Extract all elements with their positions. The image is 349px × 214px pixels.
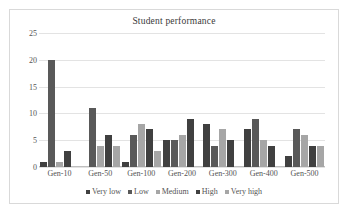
bar — [89, 108, 96, 167]
x-axis-tick-label: Gen-50 — [80, 169, 121, 178]
y-axis-tick-label: 0 — [33, 163, 37, 172]
bar — [97, 146, 104, 167]
x-axis-tick-label: Gen-400 — [243, 169, 284, 178]
chart-legend: Very lowLowMediumHighVery high — [10, 187, 338, 196]
bar — [317, 146, 324, 167]
plot-area — [39, 33, 325, 167]
y-axis-tick-label: 15 — [29, 82, 37, 91]
legend-label: Low — [134, 187, 149, 196]
y-axis-tick-label: 20 — [29, 55, 37, 64]
bar — [252, 119, 259, 167]
legend-swatch-icon — [128, 190, 132, 194]
bar — [171, 140, 178, 167]
bar — [187, 119, 194, 167]
x-axis-tick-label: Gen-10 — [39, 169, 80, 178]
legend-label: Very low — [92, 187, 121, 196]
legend-item[interactable]: High — [196, 187, 218, 196]
gridline — [39, 167, 325, 168]
x-axis-tick-label: Gen-200 — [162, 169, 203, 178]
x-axis-tick-label: Gen-300 — [202, 169, 243, 178]
bar — [211, 146, 218, 167]
bar-group — [39, 33, 80, 167]
bar — [154, 151, 161, 167]
bar — [138, 124, 145, 167]
bar — [105, 135, 112, 167]
y-axis-tick-label: 5 — [33, 136, 37, 145]
legend-label: High — [202, 187, 218, 196]
legend-item[interactable]: Low — [128, 187, 149, 196]
legend-swatch-icon — [225, 190, 229, 194]
bar — [48, 60, 55, 167]
bar — [268, 146, 275, 167]
chart-title: Student performance — [10, 16, 338, 26]
bar-group — [284, 33, 325, 167]
legend-swatch-icon — [196, 190, 200, 194]
y-axis-tick-label: 10 — [29, 109, 37, 118]
bar — [40, 162, 47, 167]
y-axis-tick-labels: 0510152025 — [19, 33, 39, 167]
bar-groups — [39, 33, 325, 167]
bar-group — [121, 33, 162, 167]
legend-swatch-icon — [86, 190, 90, 194]
x-axis-tick-label: Gen-500 — [284, 169, 325, 178]
bar-group — [162, 33, 203, 167]
bar — [260, 140, 267, 167]
x-axis-tick-labels: Gen-10Gen-50Gen-100Gen-200Gen-300Gen-400… — [39, 169, 325, 178]
chart-container: Student performance 0510152025 Gen-10Gen… — [9, 9, 339, 204]
legend-item[interactable]: Medium — [156, 187, 189, 196]
legend-label: Very high — [231, 187, 262, 196]
legend-label: Medium — [162, 187, 189, 196]
y-axis-tick-label: 25 — [29, 29, 37, 38]
bar — [301, 135, 308, 167]
bar — [113, 146, 120, 167]
bar — [146, 129, 153, 167]
bar — [293, 129, 300, 167]
bar-group — [202, 33, 243, 167]
bar — [309, 146, 316, 167]
bar — [64, 151, 71, 167]
legend-item[interactable]: Very low — [86, 187, 121, 196]
legend-swatch-icon — [156, 190, 160, 194]
bar-group — [243, 33, 284, 167]
bar — [163, 140, 170, 167]
x-axis-tick-label: Gen-100 — [121, 169, 162, 178]
bar — [56, 162, 63, 167]
bar — [285, 156, 292, 167]
bar — [219, 129, 226, 167]
bar-group — [80, 33, 121, 167]
bar — [244, 129, 251, 167]
legend-item[interactable]: Very high — [225, 187, 262, 196]
bar — [130, 135, 137, 167]
bar — [179, 135, 186, 167]
bar — [122, 162, 129, 167]
bar — [227, 140, 234, 167]
bar — [203, 124, 210, 167]
